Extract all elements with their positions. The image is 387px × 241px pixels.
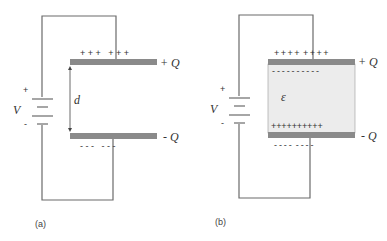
bottom-induced-charges-b: + + + + + + + + + + [271,121,322,131]
top-charge-label-a: + Q [160,56,180,70]
top-plate-charges-b: + + + + + + + + [274,48,328,58]
caption-b: (b) [215,217,226,227]
top-charge-label-b: + Q [358,55,378,69]
panel-b: + V - ε + + + + + + + + - - - - - - - - … [210,15,378,227]
battery-b [229,98,250,123]
dielectric-label-b: ε [281,90,286,104]
bottom-charge-label-a: - Q [163,130,179,144]
bottom-plate-charges-a: - - - - - - [80,141,116,151]
battery-voltage-label-a: V [13,103,22,117]
top-plate-b [268,59,355,65]
top-plate-charges-a: + + + + + + [80,48,129,58]
battery-a [32,99,53,124]
bottom-plate-b [268,132,355,138]
gap-arrow-a [68,66,72,132]
caption-a: (a) [35,219,46,229]
top-plate-a [70,59,157,65]
bottom-plate-charges-b: - - - - - - - - [274,140,313,150]
panel-a: + V - + + + + + + - - - - - - + Q - Q d … [13,16,180,229]
bottom-plate-a [70,133,157,139]
battery-plus-a: + [23,85,28,95]
gap-label-a: d [74,93,81,107]
bottom-charge-label-b: - Q [361,129,377,143]
battery-plus-b: + [220,84,225,94]
battery-voltage-label-b: V [210,102,219,116]
battery-minus-a: - [24,119,27,129]
top-induced-charges-b: - - - - - - - - - - [272,66,319,76]
battery-minus-b: - [221,118,224,128]
capacitor-diagram: + V - + + + + + + - - - - - - + Q - Q d … [0,0,387,241]
